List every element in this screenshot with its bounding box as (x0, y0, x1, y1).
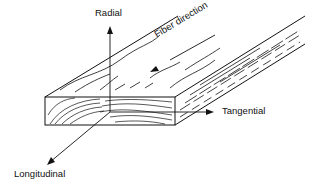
tangential-arrowhead-icon (206, 109, 214, 115)
radial-arrowhead-icon (107, 26, 113, 34)
fiber-arrowhead-icon (150, 66, 159, 72)
tangential-label: Tangential (222, 105, 265, 116)
top-grain (60, 35, 280, 95)
longitudinal-label: Longitudinal (14, 168, 65, 179)
longitudinal-arrowhead-icon (47, 157, 55, 165)
axes (50, 30, 215, 162)
radial-label: Radial (95, 7, 122, 18)
board-outline (45, 16, 305, 125)
side-grain (180, 30, 300, 117)
